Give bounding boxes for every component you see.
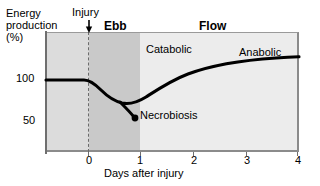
anabolic-label: Anabolic [239, 47, 281, 59]
injury-label: Injury [72, 7, 99, 19]
catabolic-label: Catabolic [146, 44, 192, 56]
necrobiosis-endpoint-dot [132, 115, 139, 122]
x-tick-label-4: 4 [288, 154, 308, 166]
y-axis-title-line3: (%) [6, 31, 23, 43]
necrobiosis-label: Necrobiosis [140, 110, 197, 122]
x-tick-label-1: 1 [130, 154, 150, 166]
x-axis-title: Days after injury [104, 168, 183, 180]
flow-phase-label: Flow [199, 20, 226, 33]
x-tick-label-2: 2 [184, 154, 204, 166]
energy-production-chart: Energyproduction(%) 100 50 0 1 2 3 4 Day… [0, 0, 320, 186]
x-tick-label-3: 3 [237, 154, 257, 166]
x-tick-label-0: 0 [79, 154, 99, 166]
y-axis-title-line1: Energy [6, 7, 41, 19]
y-axis-title-line2: production [6, 19, 57, 31]
y-tick-label-100: 100 [16, 73, 34, 85]
y-tick-label-50: 50 [23, 115, 35, 127]
y-axis-title: Energyproduction(%) [6, 8, 57, 44]
ebb-phase-label: Ebb [104, 20, 127, 33]
energy-curve-main [46, 57, 299, 104]
injury-arrow-icon [86, 20, 92, 33]
